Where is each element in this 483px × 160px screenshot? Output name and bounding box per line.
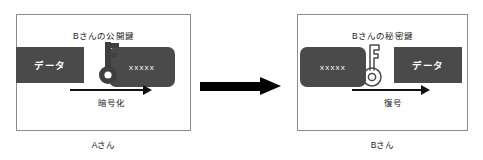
big-arrow-shaft [200, 82, 262, 91]
plaintext-block-sender: データ [16, 47, 84, 83]
key-solid-icon [93, 40, 125, 86]
person-label-sender: Aさん [16, 138, 191, 150]
encrypt-arrow-group: 暗号化 [70, 85, 170, 115]
decrypt-arrow-group: 復号 [352, 85, 448, 115]
key-outline-icon [357, 40, 391, 88]
big-arrow-head [260, 77, 281, 95]
arrow-right-icon [352, 89, 422, 91]
encrypt-label: 暗号化 [70, 96, 152, 108]
arrow-head-icon [421, 85, 430, 95]
person-label-receiver: Bさん [297, 138, 468, 150]
arrow-head-icon [143, 85, 152, 95]
big-arrow-right-icon [200, 78, 282, 96]
plaintext-block-receiver: データ [394, 47, 462, 83]
decrypt-label: 復号 [352, 96, 434, 108]
arrow-right-icon [70, 89, 144, 91]
